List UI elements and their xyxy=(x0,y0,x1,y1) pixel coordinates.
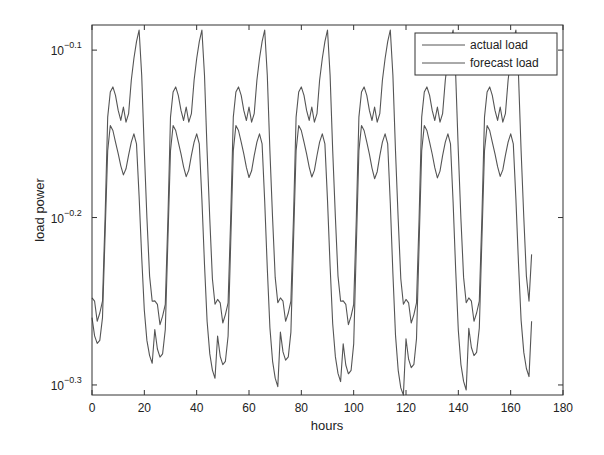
line-chart: 020406080100120140160180 10−0.110−0.210−… xyxy=(0,0,604,455)
x-tick-label: 140 xyxy=(448,401,468,415)
legend-label-actual: actual load xyxy=(470,38,528,52)
x-tick-label: 40 xyxy=(190,401,204,415)
x-tick-label: 60 xyxy=(242,401,256,415)
x-tick-label: 80 xyxy=(295,401,309,415)
x-tick-label: 120 xyxy=(396,401,416,415)
legend-label-forecast: forecast load xyxy=(470,56,539,70)
y-tick-label-exponent: −0.3 xyxy=(64,375,82,385)
chart: 020406080100120140160180 10−0.110−0.210−… xyxy=(0,0,604,455)
x-tick-label: 160 xyxy=(501,401,521,415)
legend: actual load forecast load xyxy=(415,33,557,75)
y-tick-label-exponent: −0.2 xyxy=(64,208,82,218)
x-tick-label: 100 xyxy=(344,401,364,415)
x-tick-label: 0 xyxy=(89,401,96,415)
x-tick-label: 20 xyxy=(138,401,152,415)
y-tick-label: 10 xyxy=(51,212,65,226)
y-axis-label: load power xyxy=(32,178,47,242)
y-tick-label-exponent: −0.1 xyxy=(64,40,82,50)
x-axis-label: hours xyxy=(311,418,344,433)
y-tick-label: 10 xyxy=(51,44,65,58)
x-tick-label: 180 xyxy=(553,401,573,415)
y-tick-label: 10 xyxy=(51,379,65,393)
